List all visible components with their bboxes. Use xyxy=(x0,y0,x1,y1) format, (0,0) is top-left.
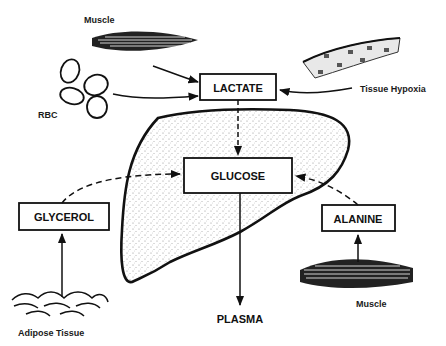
rbc-label: RBC xyxy=(38,110,58,120)
plasma-label: PLASMA xyxy=(217,313,264,325)
alanine-label: ALANINE xyxy=(334,213,383,225)
arrow-hypoxia-to-lactate xyxy=(280,88,352,93)
glycerol-node: GLYCEROL xyxy=(19,203,109,230)
glycerol-label: GLYCEROL xyxy=(34,211,94,223)
liver-shape xyxy=(121,109,349,282)
muscle-top-icon xyxy=(92,31,198,50)
muscle-top-label: Muscle xyxy=(84,15,115,25)
gluconeogenesis-diagram: Muscle RBC Tissue Hypoxia LACTATE GLUCOS… xyxy=(0,0,446,346)
lactate-node: LACTATE xyxy=(200,74,276,100)
muscle-bottom-icon xyxy=(300,259,413,288)
alanine-node: ALANINE xyxy=(322,205,395,231)
tissue-hypoxia-icon xyxy=(303,38,400,78)
muscle-bottom-label: Muscle xyxy=(356,299,387,309)
adipose-tissue-label: Adipose Tissue xyxy=(18,328,84,338)
adipose-tissue-icon xyxy=(12,292,108,316)
arrow-rbc-to-lactate xyxy=(113,94,198,98)
lactate-label: LACTATE xyxy=(213,82,263,94)
arrow-muscle-to-lactate xyxy=(153,66,198,82)
rbc-icon xyxy=(57,57,110,118)
glucose-label: GLUCOSE xyxy=(211,170,265,182)
glucose-node: GLUCOSE xyxy=(184,158,292,193)
tissue-hypoxia-label: Tissue Hypoxia xyxy=(360,84,427,94)
